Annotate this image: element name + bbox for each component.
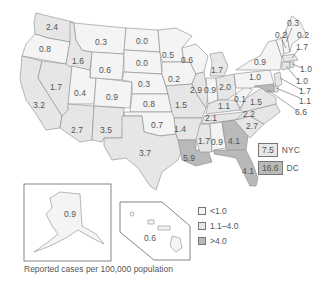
- label-UT: 0.4: [74, 88, 86, 98]
- map-legend: <1.0 1.1–4.0 >4.0: [198, 203, 238, 248]
- callout-nyc-label: NYC: [282, 143, 300, 157]
- label-TN: 2.1: [205, 113, 217, 123]
- state-RI: [290, 62, 294, 68]
- label-OK: 0.7: [151, 120, 163, 130]
- legend-swatch-high: [198, 237, 206, 245]
- label-NH: 0.2: [275, 30, 287, 40]
- callout-nyc: 7.5 NYC: [258, 143, 300, 157]
- label-KS: 0.8: [143, 99, 155, 109]
- label-OR: 0.8: [39, 44, 51, 54]
- legend-label-low: <1.0: [210, 206, 227, 216]
- legend-item-high: >4.0: [198, 233, 238, 248]
- label-AZ: 2.7: [71, 125, 83, 135]
- label-IL: 2.9: [190, 85, 202, 95]
- state-NJ: [274, 72, 282, 88]
- label-MS: 1.7: [198, 136, 210, 146]
- label-OH: 2.0: [219, 82, 231, 92]
- label-WY: 0.6: [99, 65, 111, 75]
- label-FL: 4.1: [242, 166, 254, 176]
- label-WA: 2.4: [46, 22, 58, 32]
- label-TX: 3.7: [139, 148, 151, 158]
- legend-swatch-mid: [198, 222, 206, 230]
- label-WV: 0.1: [234, 94, 246, 104]
- label-AL: 0.9: [211, 137, 223, 147]
- label-NC: 2.2: [243, 109, 255, 119]
- hawaii-island-kauai: [130, 212, 134, 216]
- label-NJ: 1.7: [299, 86, 311, 96]
- label-MA: 1.7: [296, 42, 308, 52]
- label-SC: 2.7: [246, 121, 258, 131]
- label-NM: 3.5: [100, 125, 112, 135]
- label-MN: 0.5: [162, 50, 174, 60]
- label-DE: 1.1: [299, 96, 311, 106]
- label-NE: 0.3: [138, 79, 150, 89]
- callout-dc-label: DC: [287, 161, 299, 175]
- label-AK: 0.9: [64, 209, 76, 219]
- legend-label-high: >4.0: [210, 236, 227, 246]
- hawaii-inset-frame: [120, 202, 190, 260]
- hawaii-island-maui: [158, 226, 170, 230]
- legend-item-low: <1.0: [198, 203, 238, 218]
- label-MO: 1.5: [175, 100, 187, 110]
- label-NY: 0.9: [254, 57, 266, 67]
- label-MD: 6.6: [295, 107, 307, 117]
- label-VA: 1.5: [250, 97, 262, 107]
- label-WI: 0.6: [181, 55, 193, 65]
- label-ID: 1.6: [72, 56, 84, 66]
- state-NM: [92, 106, 124, 142]
- state-DE: [274, 86, 278, 92]
- legend-item-mid: 1.1–4.0: [198, 218, 238, 233]
- label-CT: 1.0: [296, 76, 308, 86]
- label-CO: 0.9: [106, 92, 118, 102]
- hawaii-island-oahu: [148, 220, 154, 224]
- label-CA: 3.2: [33, 100, 45, 110]
- label-HI: 0.6: [144, 233, 156, 243]
- callout-dc: 16.6 DC: [258, 161, 299, 175]
- label-VT: 0.3: [287, 18, 299, 28]
- label-NV: 1.7: [50, 82, 62, 92]
- label-IN: 0.9: [204, 85, 216, 95]
- label-RI: 1.0: [300, 64, 312, 74]
- label-KY: 1.1: [218, 101, 230, 111]
- label-MI: 1.7: [211, 65, 223, 75]
- label-IA: 0.2: [168, 74, 180, 84]
- label-LA: 5.9: [183, 153, 195, 163]
- label-SD: 0.0: [136, 58, 148, 68]
- callout-dc-value: 16.6: [258, 161, 283, 175]
- label-AR: 1.4: [174, 124, 186, 134]
- map-caption: Reported cases per 100,000 population: [24, 264, 173, 274]
- callout-nyc-value: 7.5: [258, 143, 278, 157]
- legend-swatch-low: [198, 207, 206, 215]
- label-MT: 0.3: [95, 37, 107, 47]
- state-MA: [282, 54, 298, 62]
- label-GA: 4.1: [228, 136, 240, 146]
- label-PA: 1.0: [249, 72, 261, 82]
- legend-label-mid: 1.1–4.0: [210, 221, 238, 231]
- label-ND: 0.0: [136, 36, 148, 46]
- label-ME: 0.2: [297, 30, 309, 40]
